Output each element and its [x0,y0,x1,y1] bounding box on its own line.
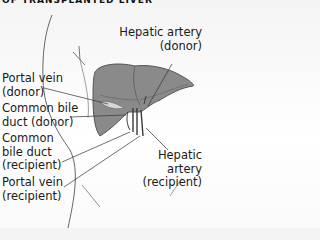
label-line: (donor) [118,40,202,54]
liver [93,64,194,136]
label-line: artery [130,163,202,177]
label-line: bile duct [2,146,61,160]
label-hepatic-artery-donor: Hepatic artery (donor) [118,26,202,53]
label-portal-vein-donor: Portal vein (donor) [2,72,63,99]
label-common-bile-duct-donor: Common bile duct (donor) [2,102,78,129]
body-outline-lower [82,185,100,207]
label-line: Portal vein [2,176,63,190]
label-line: (recipient) [2,190,63,204]
label-line: Common [2,132,61,146]
label-line: (donor) [2,86,63,100]
rib-mark [73,46,85,65]
body-outline-inner [80,60,88,118]
label-line: Hepatic [130,149,202,163]
label-line: Common bile [2,102,78,116]
label-line: Portal vein [2,72,63,86]
label-line: duct (donor) [2,116,78,130]
label-hepatic-artery-recipient: Hepatic artery (recipient) [130,149,202,190]
label-portal-vein-recipient: Portal vein (recipient) [2,176,63,203]
label-line: Hepatic artery [118,26,202,40]
label-line: (recipient) [2,159,61,173]
label-line: (recipient) [130,176,202,190]
label-common-bile-duct-recipient: Common bile duct (recipient) [2,132,61,173]
